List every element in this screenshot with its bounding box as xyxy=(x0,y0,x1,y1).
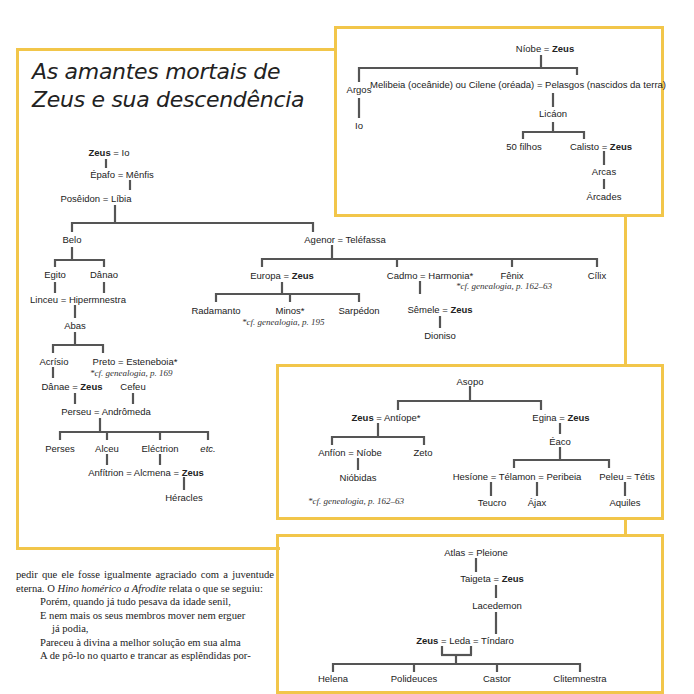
node-arcas: Arcas xyxy=(592,166,616,177)
connector-right xyxy=(624,216,627,366)
verse-line: Porém, quando já tudo pesava da idade se… xyxy=(16,595,274,609)
node-abas: Abas xyxy=(64,320,86,331)
node-minos: Minos* xyxy=(275,305,304,316)
node-castor: Castor xyxy=(483,673,511,684)
node-egito: Egito xyxy=(44,269,66,280)
node-semele: Sêmele = Zeus xyxy=(407,304,472,315)
node-perses: Perses xyxy=(45,443,75,454)
atlas-box xyxy=(276,534,664,694)
node-atlas: Atlas = Pleione xyxy=(444,547,508,558)
node-alceu: Alceu xyxy=(95,443,119,454)
node-taigeta: Taigeta = Zeus xyxy=(460,573,524,584)
title-line-1: As amantes mortais de xyxy=(32,58,304,86)
node-cadmo: Cadmo = Harmonia* xyxy=(387,270,473,281)
paragraph: pedir que ele fosse igualmente agraciado… xyxy=(16,568,274,595)
node-europa: Europa = Zeus xyxy=(250,270,314,281)
node-helena: Helena xyxy=(318,673,348,684)
node-ajax: Ájax xyxy=(528,497,546,508)
node-peleu: Peleu = Tétis xyxy=(599,471,655,482)
node-dioniso: Dioniso xyxy=(424,330,456,341)
note-minos: *cf. genealogia, p. 195 xyxy=(242,317,325,327)
node-zeus-io: Zeus = Io xyxy=(89,147,130,158)
node-50-filhos: 50 filhos xyxy=(506,141,541,152)
node-calisto: Calisto = Zeus xyxy=(570,141,632,152)
body-text: pedir que ele fosse igualmente agraciado… xyxy=(16,568,274,663)
note-preto: *cf. genealogia, p. 169 xyxy=(90,368,173,378)
node-niobe-zeus: Níobe = Zeus xyxy=(516,43,574,54)
page-title: As amantes mortais de Zeus e sua descend… xyxy=(32,58,304,114)
node-danae: Dânae = Zeus xyxy=(41,381,102,392)
node-aquiles: Aquiles xyxy=(609,497,640,508)
node-arcades: Árcades xyxy=(587,191,622,202)
node-etc: etc. xyxy=(200,443,215,454)
node-agenor: Agenor = Teléfassa xyxy=(304,234,385,245)
node-eaco: Éaco xyxy=(549,436,571,447)
node-clitemnestra: Clitemnestra xyxy=(553,673,606,684)
node-zeto: Zeto xyxy=(413,447,432,458)
node-preto: Preto = Esteneboia* xyxy=(93,356,178,367)
node-leda: Zeus = Leda = Tíndaro xyxy=(416,635,514,646)
node-epafo: Épafo = Mênfis xyxy=(90,169,154,180)
node-electrion: Eléctrion xyxy=(142,443,179,454)
node-linceu: Linceu = Hipermnestra xyxy=(30,294,126,305)
node-sarpedon: Sarpédon xyxy=(338,305,379,316)
node-danao: Dânao xyxy=(90,269,118,280)
node-hesione: Hesíone = Télamon = Peribeia xyxy=(453,471,582,482)
node-argos: Argos xyxy=(347,84,372,95)
node-teucro: Teucro xyxy=(478,497,507,508)
node-fenix: Fênix xyxy=(500,270,523,281)
title-line-2: Zeus e sua descendência xyxy=(32,86,304,114)
node-perseu: Perseu = Andrômeda xyxy=(61,406,151,417)
verse-line: A de pô-lo no quarto e trancar as esplên… xyxy=(16,649,274,663)
main-frame-bottom xyxy=(16,547,278,550)
node-anfitrion: Anfítrion = Alcmena = Zeus xyxy=(88,467,204,478)
verse-line-continuation: já podia, xyxy=(16,622,274,636)
note-antiope: *cf. genealogia, p. 162–63 xyxy=(308,496,404,506)
node-poseidon: Posêidon = Líbia xyxy=(60,193,131,204)
node-heracles: Héracles xyxy=(165,492,203,503)
main-frame-top xyxy=(16,48,336,51)
node-lacedemon: Lacedemon xyxy=(472,600,522,611)
node-licaon: Licáon xyxy=(539,108,567,119)
node-zeus-antiope: Zeus = Antíope* xyxy=(352,412,421,423)
node-belo: Belo xyxy=(62,234,81,245)
node-egina: Egina = Zeus xyxy=(532,412,589,423)
node-radamanto: Radamanto xyxy=(191,305,240,316)
verse-line: Pareceu à divina a melhor solução em sua… xyxy=(16,636,274,650)
node-polideuces: Polideuces xyxy=(391,673,437,684)
node-anfion: Anfíon = Níobe xyxy=(318,447,382,458)
note-fenix: *cf. genealogia, p. 162–63 xyxy=(456,281,552,291)
node-niobidas: Nióbidas xyxy=(340,472,377,483)
verse-line: E nem mais os seus membros mover nem erg… xyxy=(16,609,274,623)
node-melibeia: Melibeia (oceânide) ou Cilene (oréada) =… xyxy=(370,79,666,90)
node-acrisio: Acrísio xyxy=(39,356,68,367)
node-io: Io xyxy=(355,120,363,131)
node-cefeu: Cefeu xyxy=(120,381,145,392)
node-asopo: Asopo xyxy=(457,376,484,387)
niobe-box xyxy=(334,26,664,217)
node-cilix: Cílix xyxy=(588,270,606,281)
